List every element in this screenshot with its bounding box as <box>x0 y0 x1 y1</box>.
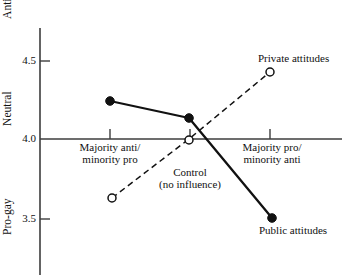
data-point-private-1 <box>108 194 116 202</box>
category-label-majority-pro-line1: Majority pro/ <box>222 141 322 153</box>
y-axis-label-anti-gay: Anti-gay <box>1 0 14 19</box>
data-point-public-2 <box>185 114 194 123</box>
category-label-control-line1: Control <box>140 166 240 178</box>
data-point-public-3 <box>268 214 277 223</box>
y-tick-label-3-5: 3.5 <box>12 212 36 224</box>
series-label-private-attitudes: Private attitudes <box>258 52 329 64</box>
data-point-public-1 <box>106 97 115 106</box>
y-tick-label-4-5: 4.5 <box>12 54 36 66</box>
data-point-private-3 <box>266 68 274 76</box>
chart-container: 4.5 4.0 3.5 Anti-gay Neutral Pro-gay Maj… <box>0 0 347 278</box>
category-label-majority-pro-line2: minority anti <box>222 153 322 165</box>
category-label-control-line2: (no influence) <box>140 178 240 190</box>
y-axis-label-neutral: Neutral <box>1 91 14 125</box>
y-axis-label-pro-gay: Pro-gay <box>1 198 14 234</box>
y-tick-label-4-0: 4.0 <box>12 132 36 144</box>
category-label-majority-anti-line1: Majority anti/ <box>60 141 160 153</box>
series-label-public-attitudes: Public attitudes <box>259 224 327 236</box>
data-point-private-2 <box>185 136 193 144</box>
category-label-majority-anti-line2: minority pro <box>60 153 160 165</box>
